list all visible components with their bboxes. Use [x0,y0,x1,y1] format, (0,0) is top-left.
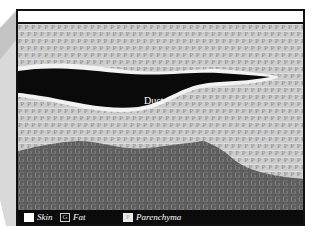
legend-label: Parenchyma [136,212,181,222]
legend-item-parenchyma: P Parenchyma [123,212,181,222]
skin-swatch-icon [24,213,34,222]
legend-label: Fat [73,212,86,222]
legend-item-fat: G Fat [60,212,86,222]
legend-item-skin: Skin [24,212,53,222]
parenchyma-swatch-icon: P [123,213,133,222]
glandular-region [18,141,305,214]
duct-label: Duct [144,95,163,106]
diagram-shapes: G [18,11,305,226]
legend: Skin G Fat P Parenchyma [18,210,303,224]
diagram-frame: P P P P P P P P P P P P P P P P P P P P … [16,9,305,226]
fat-swatch-icon: G [60,213,70,222]
legend-label: Skin [37,212,53,222]
